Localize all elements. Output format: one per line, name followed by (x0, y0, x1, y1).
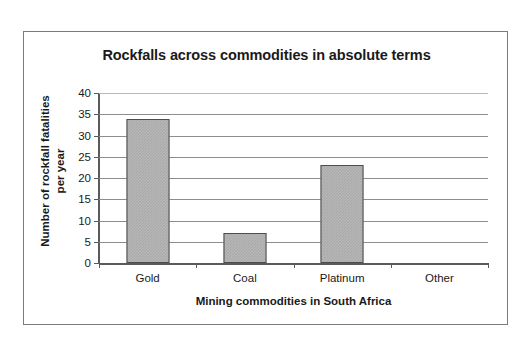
x-tick-3 (391, 263, 392, 268)
bar-platinum[interactable] (321, 165, 364, 263)
x-tick-label-other: Other (425, 272, 454, 284)
bars-layer (99, 93, 488, 263)
y-tick-label-0: 0 (85, 257, 91, 269)
y-axis-title-line-2: per year (53, 149, 67, 194)
bar-coal[interactable] (223, 233, 266, 263)
y-tick-label-40: 40 (78, 87, 91, 99)
bar-slot-coal (196, 93, 293, 263)
y-tick-label-20: 20 (78, 172, 91, 184)
chart-screenshot: Rockfalls across commodities in absolute… (0, 0, 524, 344)
y-tick-label-5: 5 (85, 236, 91, 248)
y-axis-title: Number of rockfall fatalities per year (35, 81, 69, 261)
bar-slot-other (391, 93, 488, 263)
bar-slot-gold (99, 93, 196, 263)
x-tick-0 (99, 263, 100, 268)
chart-title: Rockfalls across commodities in absolute… (24, 47, 509, 63)
x-tick-label-platinum: Platinum (320, 272, 365, 284)
y-tick-label-30: 30 (78, 130, 91, 142)
bar-slot-platinum (294, 93, 391, 263)
y-tick-label-35: 35 (78, 108, 91, 120)
y-axis-title-line-1: Number of rockfall fatalities (38, 95, 52, 246)
plot-area: 4035302520151050 GoldCoalPlatinumOther M… (99, 93, 488, 263)
x-tick-2 (294, 263, 295, 268)
x-tick-label-gold: Gold (135, 272, 159, 284)
x-tick-label-coal: Coal (233, 272, 257, 284)
y-tick-label-25: 25 (78, 151, 91, 163)
y-tick-label-10: 10 (78, 215, 91, 227)
x-tick-1 (196, 263, 197, 268)
bar-gold[interactable] (126, 119, 169, 264)
y-tick-label-15: 15 (78, 193, 91, 205)
chart-frame: Rockfalls across commodities in absolute… (23, 31, 508, 325)
x-axis-title: Mining commodities in South Africa (99, 295, 488, 307)
x-tick-4 (488, 263, 489, 268)
